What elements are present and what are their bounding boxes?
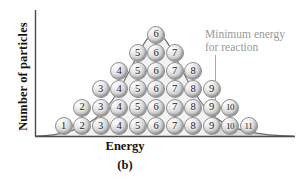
particle-sphere: 2 — [73, 99, 91, 117]
particle-sphere: 3 — [92, 80, 110, 98]
particle-sphere: 1 — [55, 117, 73, 135]
particle-sphere: 5 — [129, 117, 147, 135]
maxwell-boltzmann-figure: 656745678345678923456789101234567891011 … — [0, 0, 305, 180]
panel-caption: (b) — [35, 158, 215, 173]
particle-sphere: 5 — [129, 44, 147, 62]
particle-sphere: 3 — [92, 117, 110, 135]
particle-sphere: 4 — [110, 62, 128, 80]
particle-sphere: 9 — [203, 99, 221, 117]
particle-sphere: 7 — [166, 99, 184, 117]
particle-sphere: 5 — [129, 62, 147, 80]
particle-sphere: 11 — [240, 117, 258, 135]
particle-sphere: 4 — [110, 117, 128, 135]
particle-sphere: 8 — [184, 117, 202, 135]
particle-sphere: 8 — [184, 80, 202, 98]
y-axis-title: Number of particles — [16, 13, 31, 141]
particle-sphere: 10 — [221, 117, 239, 135]
particle-sphere: 4 — [110, 80, 128, 98]
minimum-energy-annotation-line-1: Minimum energy — [205, 28, 303, 41]
particle-sphere: 2 — [73, 117, 91, 135]
particle-sphere: 6 — [147, 44, 165, 62]
particle-sphere: 6 — [147, 117, 165, 135]
particle-sphere: 9 — [203, 80, 221, 98]
particle-sphere: 6 — [147, 62, 165, 80]
particle-sphere: 5 — [129, 99, 147, 117]
minimum-energy-annotation-line-2: for reaction — [205, 41, 303, 54]
particle-sphere: 6 — [147, 99, 165, 117]
particle-sphere: 7 — [166, 117, 184, 135]
x-axis-title: Energy — [35, 139, 215, 154]
particle-sphere: 10 — [221, 99, 239, 117]
particle-sphere: 7 — [166, 44, 184, 62]
minimum-energy-annotation: Minimum energy for reaction — [205, 28, 303, 54]
particle-sphere: 8 — [184, 99, 202, 117]
particle-sphere: 7 — [166, 80, 184, 98]
particle-sphere: 9 — [203, 117, 221, 135]
particle-sphere: 7 — [166, 62, 184, 80]
particle-sphere: 3 — [92, 99, 110, 117]
particle-sphere: 6 — [147, 80, 165, 98]
particle-sphere: 5 — [129, 80, 147, 98]
particle-sphere: 4 — [110, 99, 128, 117]
particle-sphere: 8 — [184, 62, 202, 80]
particle-sphere: 6 — [147, 26, 165, 44]
